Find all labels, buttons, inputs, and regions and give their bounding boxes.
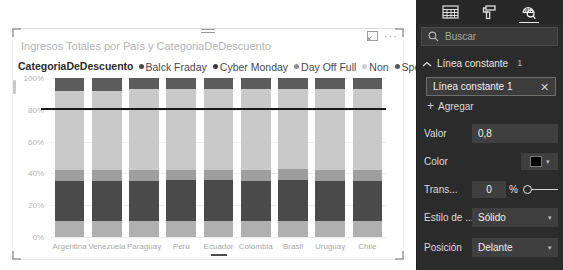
bar-segment[interactable] xyxy=(92,221,122,237)
transparencia-label: Trans... xyxy=(424,184,472,195)
bar-segment[interactable] xyxy=(92,78,122,91)
bar-segment[interactable] xyxy=(204,89,234,170)
resize-handle-bottom-left[interactable] xyxy=(12,251,21,260)
bar-segment[interactable] xyxy=(166,78,196,89)
y-axis-tick: 20% xyxy=(28,201,44,210)
section-count: 1 xyxy=(517,58,522,68)
bar-segment[interactable] xyxy=(315,170,345,181)
bar-segment[interactable] xyxy=(92,170,122,181)
bar-segment[interactable] xyxy=(129,221,159,237)
bar-segment[interactable] xyxy=(278,221,308,237)
valor-input[interactable]: 0,8 xyxy=(472,124,558,143)
bar-segment[interactable] xyxy=(55,221,85,237)
constant-line-card[interactable]: Línea constante 1 ✕ xyxy=(426,77,556,96)
bar-segment[interactable] xyxy=(353,89,383,170)
bar-segment[interactable] xyxy=(278,78,308,89)
x-axis-tick: Chile xyxy=(358,242,376,251)
bar-segment[interactable] xyxy=(92,91,122,171)
bar-segment[interactable] xyxy=(166,170,196,180)
bar-segment[interactable] xyxy=(55,91,85,171)
bar-segment[interactable] xyxy=(241,78,271,89)
transparencia-input[interactable]: 0 xyxy=(472,181,506,198)
analytics-pane[interactable]: Buscar Línea constante 1 Línea constante… xyxy=(416,0,563,270)
bar-segment[interactable] xyxy=(129,170,159,181)
y-axis-tick: 100% xyxy=(24,74,44,83)
legend-item[interactable]: Non xyxy=(362,61,388,73)
bar-segment[interactable] xyxy=(204,78,234,89)
bar-segment[interactable] xyxy=(315,221,345,237)
bar-segment[interactable] xyxy=(241,181,271,221)
transparencia-slider[interactable] xyxy=(523,184,558,196)
legend-item[interactable]: Cyber Monday xyxy=(213,61,288,73)
legend-label: Day Off Full xyxy=(301,61,356,73)
bar-segment[interactable] xyxy=(353,221,383,237)
bar-segment[interactable] xyxy=(129,181,159,221)
bar-column[interactable] xyxy=(92,78,122,237)
analytics-tab[interactable] xyxy=(518,2,540,22)
bar-column[interactable] xyxy=(315,78,345,237)
slider-knob[interactable] xyxy=(523,185,532,194)
add-constant-line-button[interactable]: + Agregar xyxy=(427,101,474,112)
drag-handle[interactable] xyxy=(201,29,215,38)
bar-segment[interactable] xyxy=(166,89,196,170)
bar-column[interactable] xyxy=(55,78,85,237)
pane-divider xyxy=(416,0,417,270)
bar-segment[interactable] xyxy=(166,221,196,237)
bar-segment[interactable] xyxy=(315,89,345,170)
bar-segment[interactable] xyxy=(315,78,345,89)
x-axis-tick: Paraguay xyxy=(127,242,161,251)
bar-segment[interactable] xyxy=(353,170,383,181)
close-icon[interactable]: ✕ xyxy=(540,82,549,92)
bar-segment[interactable] xyxy=(204,180,234,221)
bar-column[interactable] xyxy=(353,78,383,237)
bar-column[interactable] xyxy=(129,78,159,237)
more-options-icon[interactable]: ··· xyxy=(384,32,398,40)
bar-segment[interactable] xyxy=(129,78,159,89)
bar-segment[interactable] xyxy=(278,180,308,221)
legend-item[interactable]: Balck Fraday xyxy=(139,61,207,73)
format-tab[interactable] xyxy=(479,2,501,22)
legend-item[interactable]: Day Off Full xyxy=(294,61,356,73)
search-input[interactable]: Buscar xyxy=(421,27,558,46)
constant-line[interactable] xyxy=(41,108,386,110)
bar-segment[interactable] xyxy=(278,89,308,169)
bar-segment[interactable] xyxy=(92,181,122,221)
bar-segment[interactable] xyxy=(129,89,159,170)
bar-segment[interactable] xyxy=(278,169,308,180)
plot-bars[interactable] xyxy=(51,78,386,237)
report-canvas[interactable]: ··· Ingresos Totales por País y Categori… xyxy=(0,0,416,270)
bar-column[interactable] xyxy=(241,78,271,237)
add-label: Agregar xyxy=(438,101,474,112)
bar-segment[interactable] xyxy=(241,221,271,237)
focus-mode-icon[interactable] xyxy=(367,31,378,41)
x-axis-tick: Venezuela xyxy=(88,242,125,251)
estilo-dropdown[interactable]: Sólido ▾ xyxy=(472,208,558,227)
resize-handle-bottom-right[interactable] xyxy=(395,251,404,260)
chevron-up-icon[interactable] xyxy=(422,54,432,72)
bar-segment[interactable] xyxy=(315,181,345,221)
bar-column[interactable] xyxy=(204,78,234,237)
bar-segment[interactable] xyxy=(55,170,85,181)
vertical-scrollbar[interactable] xyxy=(13,80,16,94)
color-picker[interactable]: ▾ xyxy=(521,153,558,170)
bar-segment[interactable] xyxy=(241,170,271,181)
bar-segment[interactable] xyxy=(353,181,383,221)
bar-column[interactable] xyxy=(278,78,308,237)
posicion-dropdown[interactable]: Delante ▾ xyxy=(472,238,558,257)
bar-segment[interactable] xyxy=(204,221,234,237)
fields-tab[interactable] xyxy=(440,2,462,22)
legend-color-dot xyxy=(294,64,299,69)
bar-segment[interactable] xyxy=(204,170,234,180)
legend: CategoriaDeDescuento Balck FradayCyber M… xyxy=(18,59,464,73)
stacked-column-visual[interactable]: ··· Ingresos Totales por País y Categori… xyxy=(12,28,404,260)
bar-segment[interactable] xyxy=(166,180,196,221)
constant-line-section-header[interactable]: Línea constante 1 xyxy=(422,55,558,71)
chevron-down-icon[interactable]: ▾ xyxy=(546,158,550,166)
resize-handle-top-left[interactable] xyxy=(12,28,21,37)
bar-column[interactable] xyxy=(166,78,196,237)
bar-segment[interactable] xyxy=(55,181,85,221)
bar-segment[interactable] xyxy=(55,78,85,91)
bar-segment[interactable] xyxy=(353,78,383,89)
property-row-color: Color ▾ xyxy=(424,152,558,171)
bar-segment[interactable] xyxy=(241,89,271,170)
